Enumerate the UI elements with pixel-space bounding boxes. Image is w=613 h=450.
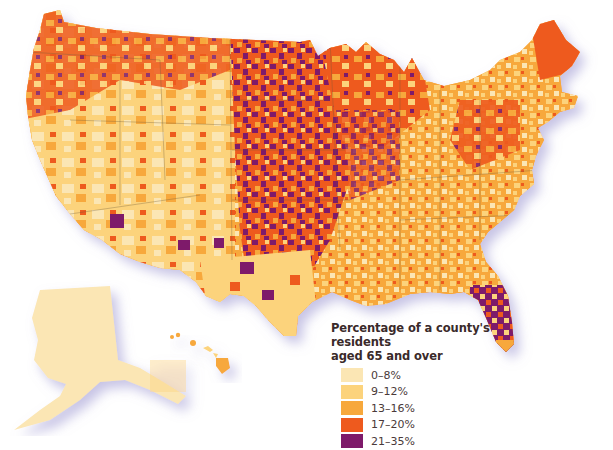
legend-item-21-35: 21–35%	[341, 433, 531, 450]
legend-swatch	[341, 385, 363, 399]
legend-label: 13–16%	[371, 402, 415, 415]
legend: Percentage of a county's residents aged …	[331, 321, 531, 450]
legend-label: 9–12%	[371, 385, 408, 398]
legend-items: 0–8% 9–12% 13–16% 17–20% 21–35%	[341, 367, 531, 450]
legend-swatch	[341, 368, 363, 382]
legend-title-line1: Percentage of a county's residents	[331, 321, 531, 349]
legend-label: 0–8%	[371, 369, 401, 382]
legend-title-line2: aged 65 and over	[331, 349, 531, 363]
legend-label: 21–35%	[371, 435, 415, 448]
legend-swatch	[341, 401, 363, 415]
legend-swatch	[341, 418, 363, 432]
legend-label: 17–20%	[371, 418, 415, 431]
legend-item-9-12: 9–12%	[341, 384, 531, 401]
legend-item-17-20: 17–20%	[341, 417, 531, 434]
legend-item-0-8: 0–8%	[341, 367, 531, 384]
legend-item-13-16: 13–16%	[341, 400, 531, 417]
legend-swatch	[341, 434, 363, 448]
alaska-inset	[14, 286, 186, 430]
